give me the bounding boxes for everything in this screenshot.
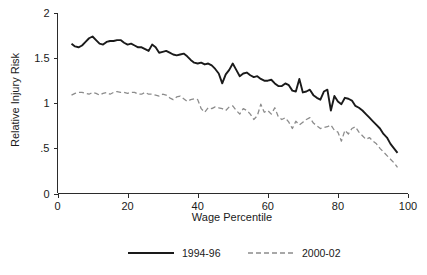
chart-figure: 0.511.52 020406080100 Wage Percentile Re…	[0, 0, 427, 275]
x-tick-label: 40	[192, 200, 204, 212]
relative-injury-risk-line-chart: 0.511.52 020406080100 Wage Percentile Re…	[0, 0, 427, 275]
y-tick-label: 2	[43, 7, 49, 19]
x-axis: 020406080100	[54, 194, 417, 212]
series-line-2000-02	[72, 92, 398, 168]
y-tick-label: 1.5	[34, 52, 49, 64]
y-tick-label: 1	[43, 97, 49, 109]
legend-label-2000-02: 2000-02	[302, 247, 341, 259]
x-tick-label: 100	[399, 200, 417, 212]
x-axis-title: Wage Percentile	[192, 211, 272, 223]
x-tick-label: 60	[262, 200, 274, 212]
y-axis-title: Relative Injury Risk	[9, 52, 21, 147]
series-group	[72, 36, 398, 167]
x-tick-label: 20	[121, 200, 133, 212]
y-axis: 0.511.52	[34, 7, 57, 200]
x-tick-group: 020406080100	[54, 194, 417, 212]
x-tick-label: 0	[54, 200, 60, 212]
y-tick-label: 0	[43, 188, 49, 200]
x-tick-label: 80	[332, 200, 344, 212]
series-line-1994-96	[72, 36, 398, 152]
legend-label-1994-96: 1994-96	[182, 247, 221, 259]
y-tick-label: .5	[40, 142, 49, 154]
y-tick-group: 0.511.52	[34, 7, 57, 200]
chart-legend: 1994-962000-02	[128, 247, 341, 259]
